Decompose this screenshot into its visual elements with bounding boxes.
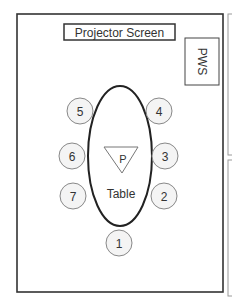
seat-number: 3 xyxy=(162,150,169,164)
conference-table: P Table xyxy=(88,86,152,226)
seat-number: 6 xyxy=(69,150,76,164)
pws-box: PWS xyxy=(185,38,219,85)
seat-7: 7 xyxy=(60,183,86,209)
seat-number: 7 xyxy=(70,190,77,204)
seat-5: 5 xyxy=(67,98,93,124)
seat-number: 1 xyxy=(116,237,123,251)
seat-number: 2 xyxy=(161,190,168,204)
seat-4: 4 xyxy=(146,98,172,124)
seat-2: 2 xyxy=(151,183,177,209)
projector-screen: Projector Screen xyxy=(64,24,175,40)
presenter-marker: P xyxy=(119,153,126,165)
seat-1: 1 xyxy=(106,230,132,256)
seat-number: 4 xyxy=(156,105,163,119)
seat-6: 6 xyxy=(59,143,85,169)
side-panel-bottom xyxy=(228,160,232,296)
seat-3: 3 xyxy=(152,143,178,169)
table-label: Table xyxy=(107,187,136,201)
seat-number: 5 xyxy=(77,105,84,119)
pws-label: PWS xyxy=(195,48,209,75)
room-layout-diagram: Projector Screen PWS P Table 1 2 3 4 5 6… xyxy=(0,0,232,301)
side-panel-top xyxy=(228,14,232,155)
projector-screen-label: Projector Screen xyxy=(75,26,164,40)
